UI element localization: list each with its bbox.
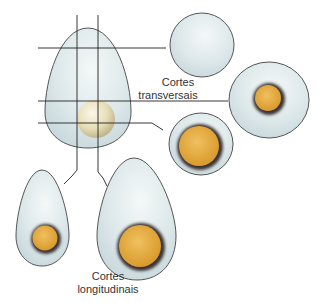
diagram-graphic — [0, 0, 323, 303]
longitudinal-section-1 — [16, 170, 69, 266]
label-line: Cortes — [68, 270, 148, 283]
transverse-section-3 — [169, 113, 233, 175]
label-line: longitudinais — [68, 283, 148, 296]
transverse-sections-label: Cortes transversais — [128, 76, 208, 102]
egg-sections-diagram: Cortes transversais Cortes longitudinais — [0, 0, 323, 303]
longitudinal-section-2 — [97, 158, 176, 280]
label-line: Cortes — [128, 76, 208, 89]
transverse-section-2 — [229, 62, 309, 138]
whole-egg-yolk — [77, 100, 115, 138]
whole-egg — [45, 28, 131, 148]
longitudinal-sections-label: Cortes longitudinais — [68, 270, 148, 296]
label-line: transversais — [128, 89, 208, 102]
transverse-section-1 — [170, 13, 234, 77]
